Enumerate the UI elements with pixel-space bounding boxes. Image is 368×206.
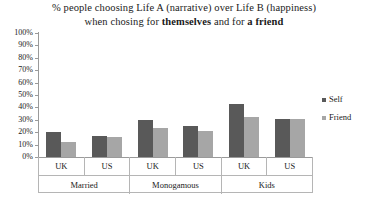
y-axis-tick-label: 30%: [18, 116, 33, 124]
category-label-us: US: [85, 157, 131, 175]
y-axis-tick-label: 70%: [18, 66, 33, 74]
bar-chart: % people choosing Life A (narrative) ove…: [0, 0, 368, 206]
bar-pair: [175, 33, 221, 157]
y-axis-tick-label: 90%: [18, 41, 33, 49]
legend-label: Friend: [329, 113, 351, 122]
bar-groups: [38, 33, 313, 157]
y-axis-tick-label: 50%: [18, 91, 33, 99]
chart-title-emphasis-a-friend: a friend: [247, 16, 283, 27]
chart-legend: SelfFriend: [322, 93, 368, 129]
y-axis-tick-label: 10%: [18, 141, 33, 149]
group-row: MarriedMonogamousKids: [39, 176, 312, 194]
bar-self: [183, 126, 198, 157]
bar-category-column: [221, 33, 267, 157]
bar-self: [229, 104, 244, 157]
bar-self: [46, 132, 61, 157]
bar-pair: [221, 33, 267, 157]
group-label-monogamous: Monogamous: [130, 176, 221, 194]
bar-friend: [198, 131, 213, 157]
y-axis-tick-label: 80%: [18, 54, 33, 62]
bar-friend: [290, 119, 305, 157]
bar-self: [138, 120, 153, 157]
group-label-kids: Kids: [222, 176, 312, 194]
bar-category-column: [267, 33, 313, 157]
category-axis: UKUSUKUSUKUS MarriedMonogamousKids: [38, 157, 313, 193]
bar-self: [275, 119, 290, 157]
bar-pair: [38, 33, 84, 157]
legend-label: Self: [329, 95, 343, 104]
legend-swatch-icon: [322, 98, 326, 102]
bar-friend: [153, 128, 168, 157]
chart-title-line-2: when chosing for themselves and for a fr…: [10, 15, 358, 29]
group-label-married: Married: [39, 176, 130, 194]
category-label-uk: UK: [222, 157, 268, 175]
chart-title: % people choosing Life A (narrative) ove…: [10, 1, 358, 28]
chart-title-emphasis-themselves: themselves: [162, 16, 211, 27]
plot-canvas: 100%90%80%70%60%50%40%30%20%10%0%: [38, 33, 313, 157]
y-axis-tick-label: 0%: [22, 153, 33, 161]
bar-self: [92, 136, 107, 157]
legend-swatch-icon: [322, 116, 326, 120]
bar-pair: [267, 33, 313, 157]
category-row: UKUSUKUSUKUS: [39, 157, 312, 176]
legend-item-friend: Friend: [322, 111, 368, 124]
category-label-uk: UK: [130, 157, 176, 175]
y-axis-tick-label: 60%: [18, 79, 33, 87]
category-label-uk: UK: [39, 157, 85, 175]
bar-friend: [61, 142, 76, 157]
y-axis-tick-label: 20%: [18, 128, 33, 136]
bar-category-column: [38, 33, 84, 157]
bar-category-column: [130, 33, 176, 157]
bar-pair: [130, 33, 176, 157]
bar-category-column: [175, 33, 221, 157]
chart-title-line-1: % people choosing Life A (narrative) ove…: [10, 1, 358, 15]
y-axis-tick-label: 100%: [14, 29, 33, 37]
bar-friend: [244, 117, 259, 157]
chart-title-line-2-prefix: when chosing for: [85, 16, 162, 27]
y-axis-tick-label: 40%: [18, 103, 33, 111]
chart-title-line-2-middle: and for: [211, 16, 247, 27]
bar-pair: [84, 33, 130, 157]
plot-area: 100%90%80%70%60%50%40%30%20%10%0%: [38, 33, 313, 157]
bar-category-column: [84, 33, 130, 157]
legend-item-self: Self: [322, 93, 368, 106]
bar-friend: [107, 137, 122, 157]
category-label-us: US: [267, 157, 312, 175]
category-label-us: US: [176, 157, 222, 175]
